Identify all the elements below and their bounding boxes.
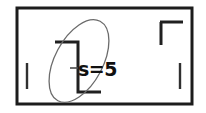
hand-drawn-diagram: s=5 <box>0 0 206 113</box>
canvas-background <box>0 0 206 113</box>
sketch-canvas: s=5 <box>0 0 206 113</box>
annotation-label: s=5 <box>78 58 117 80</box>
